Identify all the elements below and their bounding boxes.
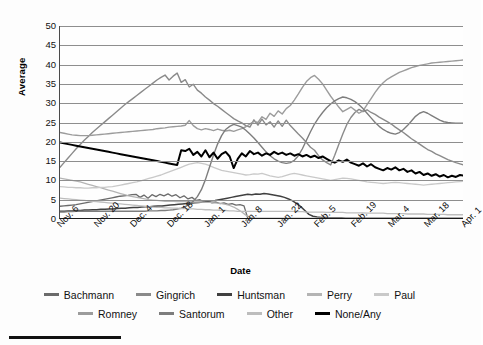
bottom-rule (9, 336, 121, 339)
y-tick-label: 25 (30, 118, 56, 128)
y-tick-label: 45 (30, 40, 56, 50)
legend-label: Paul (394, 289, 415, 301)
gridline (60, 65, 463, 66)
legend-row-2: RomneySantorumOtherNone/Any (0, 304, 481, 323)
gridline (60, 142, 463, 143)
legend-item[interactable]: Santorum (159, 308, 225, 320)
y-tick-label: 10 (30, 175, 56, 185)
legend-swatch-icon (307, 293, 322, 296)
legend-swatch-icon (217, 293, 232, 296)
gridline (60, 103, 463, 104)
legend-label: Santorum (179, 308, 225, 320)
legend-swatch-icon (44, 293, 59, 296)
gridline (60, 161, 463, 162)
x-axis-title: Date (0, 265, 481, 276)
gridlines (60, 26, 463, 218)
y-tick-label: 5 (30, 195, 56, 205)
legend-label: Bachmann (64, 289, 114, 301)
gridline (60, 45, 463, 46)
legend-item[interactable]: Perry (307, 289, 352, 301)
legend-swatch-icon (247, 312, 262, 315)
y-tick-label: 40 (30, 60, 56, 70)
y-tick-label: 15 (30, 156, 56, 166)
y-tick-label: 50 (30, 21, 56, 31)
legend-item[interactable]: Other (247, 308, 293, 320)
y-axis-tick-labels: 50454035302520151050 (30, 20, 56, 225)
legend-swatch-icon (315, 312, 330, 316)
legend-swatch-icon (374, 293, 389, 296)
chart-legend: BachmannGingrichHuntsmanPerryPaul Romney… (0, 285, 481, 323)
legend-label: Gingrich (156, 289, 195, 301)
y-tick-label: 30 (30, 98, 56, 108)
plot-area (59, 26, 463, 219)
gridline (60, 26, 463, 27)
gridline (60, 180, 463, 181)
legend-label: Romney (98, 308, 137, 320)
legend-item[interactable]: None/Any (315, 308, 381, 320)
y-axis-title: Average (16, 57, 27, 96)
legend-label: Huntsman (237, 289, 285, 301)
legend-item[interactable]: Paul (374, 289, 415, 301)
legend-swatch-icon (136, 293, 151, 296)
y-tick-label: 35 (30, 79, 56, 89)
legend-swatch-icon (78, 312, 93, 315)
legend-item[interactable]: Huntsman (217, 289, 285, 301)
gridline (60, 84, 463, 85)
x-axis-tick-labels: Nov. 6Nov. 20Dec. 4Dec. 18Jan. 1Jan. 8Ja… (0, 222, 481, 262)
legend-item[interactable]: Gingrich (136, 289, 195, 301)
legend-swatch-icon (159, 312, 174, 315)
legend-item[interactable]: Bachmann (44, 289, 114, 301)
legend-item[interactable]: Romney (78, 308, 137, 320)
legend-label: Perry (327, 289, 352, 301)
gridline (60, 200, 463, 201)
legend-label: Other (267, 308, 293, 320)
legend-label: None/Any (335, 308, 381, 320)
legend-row-1: BachmannGingrichHuntsmanPerryPaul (0, 285, 481, 304)
y-tick-label: 20 (30, 137, 56, 147)
gridline (60, 123, 463, 124)
